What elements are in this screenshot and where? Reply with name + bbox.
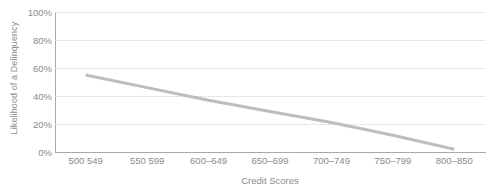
x-tick-label: 650–699 [252, 155, 289, 166]
delinquency-vs-credit-score-chart: Likelihood of a Delinquency 0%20%40%60%8… [0, 0, 493, 196]
y-tick-label: 80% [14, 35, 52, 46]
x-tick-label: 550 599 [130, 155, 164, 166]
x-axis-line [55, 152, 486, 153]
y-tick-label: 40% [14, 91, 52, 102]
y-tick-label: 100% [14, 7, 52, 18]
x-tick-label: 600–649 [190, 155, 227, 166]
data-series-line [55, 12, 485, 152]
y-tick-label: 0% [14, 147, 52, 158]
x-tick-label: 750–799 [374, 155, 411, 166]
x-axis-tick-labels: 500 549550 599600–649650–699700–749750–7… [55, 155, 485, 171]
y-tick-label: 20% [14, 119, 52, 130]
x-tick-label: 700–749 [313, 155, 350, 166]
plot-area [55, 12, 485, 152]
x-tick-label: 500 549 [69, 155, 103, 166]
y-tick-label: 60% [14, 63, 52, 74]
x-tick-label: 800–850 [436, 155, 473, 166]
y-axis-tick-labels: 0%20%40%60%80%100% [14, 0, 52, 196]
x-axis-title: Credit Scores [55, 175, 485, 186]
